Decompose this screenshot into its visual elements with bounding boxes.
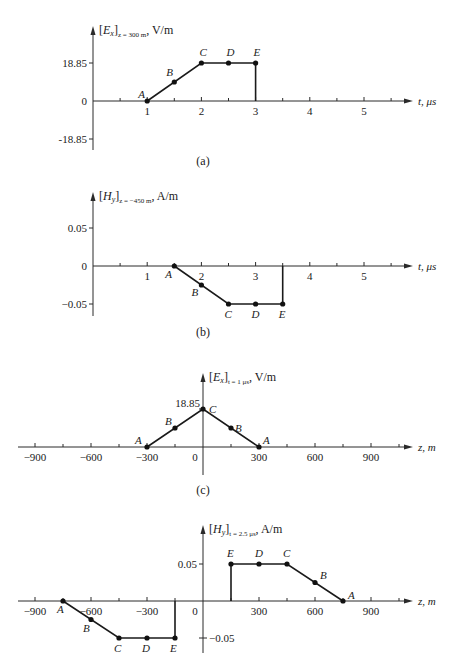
x-axis-label: z, m [417,595,436,607]
point-label: A [137,88,145,100]
point-label: A [134,434,142,446]
x-axis-label: t, μs [418,260,436,272]
x-axis-arrow-icon [404,264,413,269]
x-tick-label: 900 [363,451,380,463]
data-point [199,60,204,65]
data-point [199,282,204,287]
x-tick-label: −600 [80,451,103,463]
x-axis-label: z, m [417,441,436,453]
data-point [228,425,233,430]
point-label: B [320,569,327,581]
data-point [145,98,150,103]
point-label: E [169,642,177,653]
point-label: C [283,547,291,559]
point-label: C [209,403,217,415]
data-point [253,301,258,306]
y-axis-title: [Hy]t = 2.5 μs, A/m [209,522,283,538]
waveform-line [174,266,282,304]
point-label: A [347,589,355,601]
data-point [256,561,261,566]
data-point [228,561,233,566]
point-label: A [56,603,64,615]
x-tick-label: 300 [251,451,268,463]
y-tick-label: 0 [82,260,88,272]
point-label: D [254,547,263,559]
point-label: A [164,268,172,280]
chart-d: z, m[Hy]t = 2.5 μs, A/m−900−600−30003006… [18,522,436,653]
data-point [256,444,261,449]
x-tick-label: 2 [199,105,205,117]
chart-b: t, μs[Hy]z = −450 m, A/m123450.050−0.05A… [62,189,437,320]
data-point [253,60,258,65]
x-tick-label: 3 [253,105,259,117]
waveform-line [147,63,255,101]
x-tick-label: 4 [307,270,313,282]
point-label: E [278,308,286,320]
data-point [280,301,285,306]
y-axis-arrow-icon [91,192,96,201]
data-point [172,263,177,268]
point-label: B [165,415,172,427]
figure: t, μs[Ex]z = 300 m, V/m1234518.850-18.85… [0,0,459,653]
point-label: D [226,46,235,58]
y-axis-title: [Hy]z = −450 m, A/m [99,189,179,205]
point-label: D [141,642,150,653]
x-axis-arrow-icon [404,599,413,604]
figure-svg: t, μs[Ex]z = 300 m, V/m1234518.850-18.85… [0,0,459,653]
chart-c: z, m[Ex]t = 1 μs, V/m−900−600−3000300600… [18,370,436,475]
y-axis-arrow-icon [201,525,206,534]
x-tick-label: −900 [24,451,47,463]
point-label: B [235,422,242,434]
point-label: B [166,66,173,78]
x-tick-label: 3 [253,270,259,282]
x-axis-arrow-icon [404,445,413,450]
y-tick-label: 0 [82,95,88,107]
x-tick-label: 1 [144,270,150,282]
point-label: D [251,308,260,320]
y-tick-label: 18.85 [62,57,87,69]
x-axis-arrow-icon [404,99,413,104]
data-point [226,301,231,306]
x-tick-label: 900 [363,605,380,617]
data-point [284,561,289,566]
data-point [226,60,231,65]
point-label: C [225,308,233,320]
data-point [116,635,121,640]
y-tick-label: 0.05 [68,222,88,234]
x-tick-label: −900 [24,605,47,617]
caption-b: (b) [196,325,210,339]
x-tick-label: 1 [144,105,150,117]
y-axis-arrow-icon [201,373,206,382]
y-tick-label: −0.05 [62,298,88,310]
data-point [144,444,149,449]
x-tick-label: 0 [192,605,198,617]
x-tick-label: 600 [307,451,324,463]
y-axis-title: [Ex]z = 300 m, V/m [99,23,174,39]
x-axis-label: t, μs [418,95,436,107]
x-tick-label: 5 [361,105,367,117]
data-point [172,425,177,430]
point-label: C [199,46,207,58]
x-tick-label: 600 [307,605,324,617]
chart-a: t, μs[Ex]z = 300 m, V/m1234518.850-18.85… [59,23,437,150]
caption-c: (c) [196,483,209,497]
point-label: C [114,642,122,653]
y-tick-label: -18.85 [59,133,88,145]
x-tick-label: 2 [199,270,205,282]
x-tick-label: 300 [251,605,268,617]
data-point [312,580,317,585]
y-tick-label: −0.05 [209,632,235,644]
point-label: E [226,547,234,559]
x-tick-label: 4 [307,105,313,117]
x-tick-label: 0 [192,451,198,463]
y-axis-arrow-icon [91,26,96,35]
data-point [144,635,149,640]
caption-a: (a) [196,154,209,168]
data-point [172,635,177,640]
x-tick-label: −300 [136,451,159,463]
y-tick-label: 0.05 [178,558,198,570]
data-point [200,406,205,411]
point-label: B [83,622,90,634]
point-label: E [253,46,261,58]
y-tick-label: 18.85 [175,397,200,409]
